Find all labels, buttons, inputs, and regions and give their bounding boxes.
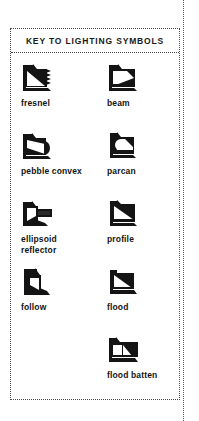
fresnel-lantern-icon (21, 62, 53, 94)
symbol-label: fresnel (21, 98, 95, 109)
lighting-symbols-key-box: KEY TO LIGHTING SYMBOLS (10, 28, 180, 400)
symbol-label: ellipsoid reflector (21, 234, 95, 255)
parcan-icon (107, 130, 139, 162)
symbol-row: ellipsoid reflector (11, 198, 179, 266)
symbol-label: flood (107, 302, 179, 313)
floodlight-icon (107, 266, 139, 298)
symbol-label: pebble convex (21, 166, 95, 177)
symbol-cell-ellipsoid-reflector: ellipsoid reflector (11, 198, 95, 266)
symbols-grid: fresnel (11, 53, 179, 402)
symbol-label: profile (107, 234, 179, 245)
symbol-cell-fresnel: fresnel (11, 62, 95, 130)
key-title-bar: KEY TO LIGHTING SYMBOLS (11, 29, 179, 53)
symbol-cell-pebble-convex: pebble convex (11, 130, 95, 198)
page-edge-rule (183, 0, 184, 421)
profile-spot-icon (107, 198, 139, 230)
symbol-row: pebble convex (11, 130, 179, 198)
symbol-cell-parcan: parcan (95, 130, 179, 198)
followspot-icon (21, 266, 53, 298)
symbol-cell-follow: follow (11, 266, 95, 334)
symbol-cell-profile: profile (95, 198, 179, 266)
symbol-label: parcan (107, 166, 179, 177)
symbol-cell-flood-batten: flood batten (95, 334, 179, 402)
symbol-label: flood batten (107, 370, 179, 381)
key-title: KEY TO LIGHTING SYMBOLS (26, 36, 164, 46)
symbol-cell-flood: flood (95, 266, 179, 334)
symbol-cell-beam: beam (95, 62, 179, 130)
flood-batten-icon (107, 334, 139, 366)
symbol-row: follow flood (11, 266, 179, 334)
symbol-label: beam (107, 98, 179, 109)
symbol-row: flood batten (11, 334, 179, 402)
symbol-label: follow (21, 302, 95, 313)
ellipsoid-reflector-icon (21, 198, 53, 230)
beam-light-icon (107, 62, 139, 94)
symbol-row: fresnel (11, 62, 179, 130)
pebble-convex-lantern-icon (21, 130, 53, 162)
